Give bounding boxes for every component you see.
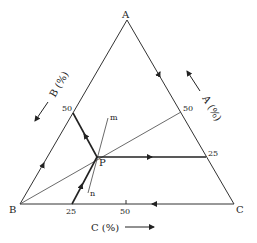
vertex-b: B bbox=[9, 204, 16, 215]
vertex-a: A bbox=[121, 9, 130, 20]
edge-arrow-ac bbox=[159, 72, 160, 74]
a-axis-arrow bbox=[187, 71, 200, 91]
b-axis-arrow bbox=[35, 102, 48, 121]
axis-label-c: C (%) bbox=[91, 222, 119, 233]
tick-ac-25: 25 bbox=[208, 149, 218, 158]
tick-ab-50: 50 bbox=[62, 104, 72, 113]
vertex-c: C bbox=[236, 204, 244, 215]
point-p: P bbox=[99, 157, 106, 168]
axis-label-b: B (%) bbox=[47, 69, 70, 99]
ternary-diagram: A B C P m n 50 50 25 25 50 C (%) B (%) A… bbox=[0, 0, 257, 243]
tick-bc-50-label: 50 bbox=[120, 207, 130, 216]
tick-ac-50: 50 bbox=[183, 104, 193, 113]
label-m: m bbox=[110, 113, 118, 122]
tick-bc-25: 25 bbox=[66, 207, 76, 216]
axis-label-a: A (%) bbox=[200, 93, 224, 123]
triangle-outline bbox=[20, 20, 234, 204]
label-n: n bbox=[90, 189, 95, 198]
